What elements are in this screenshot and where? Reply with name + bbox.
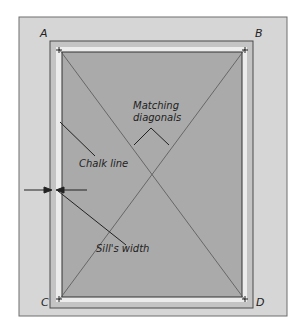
corner-label-a: A — [39, 27, 48, 40]
chalk-line-label: Chalk line — [79, 158, 128, 169]
matching-diagonals-label-line2: diagonals — [133, 112, 181, 123]
corner-label-c: C — [41, 296, 49, 309]
corner-label-d: D — [256, 296, 264, 309]
sills-width-label: Sill's width — [96, 243, 149, 254]
sill-diagonals-diagram: A B C D Matching diagonals Chalk line Si… — [0, 0, 298, 331]
corner-label-b: B — [255, 27, 263, 40]
matching-diagonals-label-line1: Matching — [133, 100, 179, 111]
